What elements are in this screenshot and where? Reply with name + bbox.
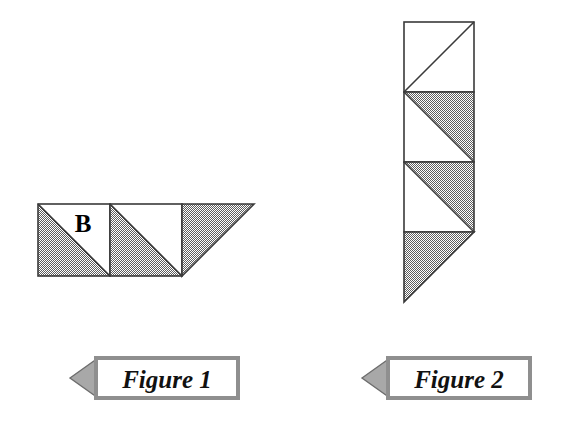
figure-2-square-1 [404,22,474,92]
left-arrow-icon [70,358,98,398]
figure-2-caption-banner: Figure 2 [360,350,540,406]
figure-1-caption-banner: Figure 1 [68,350,248,406]
figure-2-terminal-triangle [404,232,474,302]
figure-canvas: B [0,0,574,434]
figure-2-square-3 [404,162,474,232]
figure-1-caption-label: Figure 1 [121,366,212,393]
left-arrow-icon [362,358,390,398]
shaded-triangle [404,232,474,302]
figure-2-caption-label: Figure 2 [413,366,504,393]
figure-1-terminal-triangle [182,204,254,276]
cell-label-b: B [75,210,92,237]
figure-1-shape: B [30,193,270,288]
shaded-triangle [182,204,254,276]
figure-1-square-2 [110,204,182,276]
figure-2-square-2 [404,92,474,162]
figure-2-shape [394,12,494,342]
figure-1-square-1: B [38,204,110,276]
